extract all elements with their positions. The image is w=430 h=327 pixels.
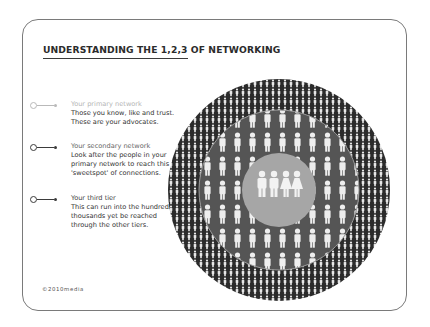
legend-body: This can run into the hundreds of thousa…: [71, 203, 181, 229]
legend-heading: Your primary network: [71, 100, 181, 109]
copyright-footer: ©2010media: [42, 286, 84, 292]
legend-heading: Your secondary network: [71, 142, 181, 151]
legend-heading: Your third tier: [71, 194, 181, 203]
connector-bullet-icon: [30, 196, 60, 204]
title-underline: [43, 58, 188, 59]
legend-body: Look after the people in your primary ne…: [71, 151, 169, 177]
network-circles-diagram: [168, 79, 390, 301]
legend-body: Those you know, like and trust. These ar…: [71, 109, 174, 126]
primary-network-circle: [242, 153, 316, 227]
slide-title: UNDERSTANDING THE 1,2,3 OF NETWORKING: [43, 44, 280, 55]
connector-bullet-icon: [30, 102, 60, 110]
connector-bullet-icon: [30, 144, 60, 152]
